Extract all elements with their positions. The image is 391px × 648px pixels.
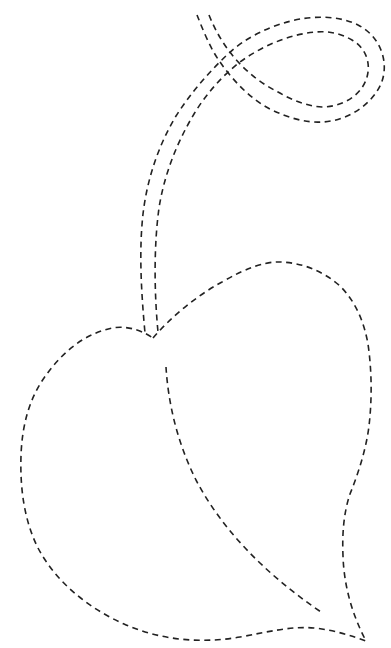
leaf-midrib (166, 367, 321, 612)
leaf-tracing-drawing (0, 0, 391, 648)
leaf-outline (21, 262, 371, 641)
stem-inner-line (155, 15, 368, 332)
stem-outer-line (141, 15, 384, 333)
